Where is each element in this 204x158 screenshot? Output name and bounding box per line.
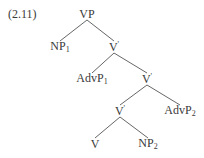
tree-edge: [120, 117, 148, 138]
tree-edge: [95, 117, 120, 138]
tree-node-advp2: AdvP2: [164, 104, 195, 118]
tree-node-vbar2: V': [142, 73, 152, 85]
node-label: NP: [50, 39, 65, 53]
tree-node-vbar1: V': [109, 41, 119, 53]
tree-edge: [120, 85, 147, 105]
node-subscript: 2: [154, 142, 158, 151]
node-label: V: [109, 40, 118, 54]
tree-node-v: V: [91, 138, 100, 150]
node-subscript: 2: [192, 109, 196, 118]
tree-node-advp1: AdvP1: [76, 72, 107, 86]
node-label: NP: [138, 136, 153, 150]
node-subscript: 1: [66, 45, 70, 54]
node-label: AdvP: [76, 71, 103, 85]
node-label: AdvP: [164, 103, 191, 117]
tree-node-np2: NP2: [138, 137, 157, 151]
tree-edge: [60, 20, 87, 41]
tree-node-vbar3: V': [115, 105, 125, 117]
tree-edge: [87, 20, 114, 41]
node-bar-mark: ': [118, 40, 119, 49]
node-label: V: [115, 104, 124, 118]
node-label: V: [91, 137, 100, 151]
tree-node-np1: NP1: [50, 40, 69, 54]
node-subscript: 1: [104, 77, 108, 86]
tree-edge: [92, 53, 114, 73]
tree-node-vp: VP: [79, 8, 94, 20]
node-bar-mark: ': [151, 72, 152, 81]
node-label: VP: [79, 7, 94, 21]
tree-edge: [114, 53, 147, 73]
node-bar-mark: ': [124, 104, 125, 113]
tree-edge: [147, 85, 180, 105]
node-label: V: [142, 72, 151, 86]
